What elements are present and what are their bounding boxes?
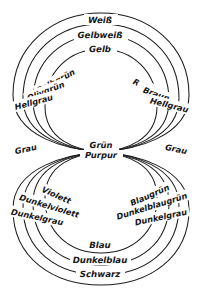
label-weiss: Weiß	[88, 16, 112, 26]
center-labels: Grün Purpur	[80, 140, 123, 160]
label-gruen-center: Grün	[90, 140, 113, 150]
label-purpur-center: Purpur	[85, 150, 118, 160]
label-grau-right: Grau	[164, 142, 188, 156]
lower-left-labels: Violett Dunkelviolett Dunkelgrau	[8, 182, 84, 228]
upper-top-labels: Weiß Gelbweiß Gelb	[74, 14, 128, 55]
label-grau-left: Grau	[14, 142, 38, 156]
upper-right-labels: Rot Braun Hellgrau	[126, 73, 193, 116]
label-gelb: Gelb	[89, 45, 111, 55]
label-blau: Blau	[89, 241, 110, 251]
lower-bottom-labels: Blau Dunkelblau Schwarz	[70, 239, 131, 280]
color-loop-diagram: Weiß Gelbweiß Gelb Gelbgrün Olivgrün Hel…	[0, 0, 203, 298]
label-gelbweiss: Gelbweiß	[78, 31, 123, 41]
label-dunkelblau: Dunkelblau	[73, 256, 128, 266]
diagram-canvas: Weiß Gelbweiß Gelb Gelbgrün Olivgrün Hel…	[0, 0, 203, 298]
upper-ring-4	[45, 49, 157, 152]
label-schwarz: Schwarz	[80, 270, 121, 280]
